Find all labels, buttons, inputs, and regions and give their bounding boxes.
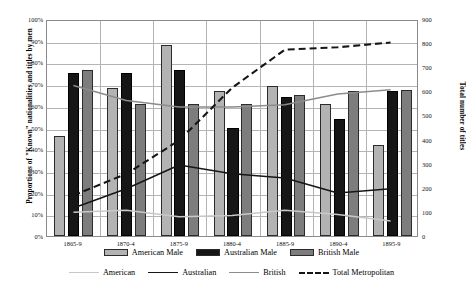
legend-item[interactable]: American Male xyxy=(104,248,183,257)
y-tick-label-right: 300 xyxy=(422,161,448,168)
legend-line-icon xyxy=(148,269,178,277)
line-australian xyxy=(73,165,390,208)
bar-legend: American MaleAustralian MaleBritish Male xyxy=(0,248,463,257)
legend-item[interactable]: Total Metropolitan xyxy=(299,268,395,277)
x-tick-label: 1885-9 xyxy=(257,240,313,247)
line-series-layer xyxy=(47,21,417,236)
y-tick-label-right: 100 xyxy=(422,209,448,216)
line-total xyxy=(73,43,390,196)
x-tick-label: 1890-4 xyxy=(310,240,366,247)
x-tick-label: 1875-9 xyxy=(151,240,207,247)
legend-label: Australian Male xyxy=(224,248,277,257)
x-tick-label: 1880-4 xyxy=(204,240,260,247)
y-axis-right-title: Total number of titles xyxy=(458,26,466,206)
legend-label: Australian xyxy=(182,268,216,277)
line-british xyxy=(73,86,390,108)
y-tick-label-left: 10% xyxy=(17,211,43,218)
line-american xyxy=(73,210,390,221)
line-legend: AmericanAustralianBritishTotal Metropoli… xyxy=(0,268,463,277)
y-tick-label-right: 200 xyxy=(422,185,448,192)
y-tick-label-left: 20% xyxy=(17,190,43,197)
y-tick-label-left: 60% xyxy=(17,103,43,110)
legend-item[interactable]: Australian Male xyxy=(196,248,277,257)
y-tick-label-left: 50% xyxy=(17,125,43,132)
y-tick-label-left: 80% xyxy=(17,59,43,66)
y-tick-label-left: 40% xyxy=(17,146,43,153)
y-tick-label-left: 30% xyxy=(17,168,43,175)
legend-swatch-icon xyxy=(196,249,220,256)
legend-swatch-icon xyxy=(290,249,314,256)
legend-line-icon xyxy=(299,269,329,277)
legend-label: American Male xyxy=(132,248,183,257)
y-tick-label-left: 70% xyxy=(17,81,43,88)
y-tick-label-right: 700 xyxy=(422,64,448,71)
y-tick-label-right: 800 xyxy=(422,40,448,47)
y-tick-label-left: 100% xyxy=(17,16,43,23)
legend-label: American xyxy=(103,268,135,277)
x-tick-label: 1895-9 xyxy=(363,240,419,247)
legend-item[interactable]: American xyxy=(69,268,135,277)
legend-item[interactable]: British xyxy=(229,268,285,277)
legend-item[interactable]: British Male xyxy=(290,248,359,257)
legend-label: British Male xyxy=(318,248,359,257)
y-tick-label-right: 900 xyxy=(422,16,448,23)
legend-line-icon xyxy=(69,269,99,277)
x-tick-label: 1865-9 xyxy=(45,240,101,247)
y-axis-left-title: Proportions of "Known" nationalities and… xyxy=(26,26,34,206)
legend-line-icon xyxy=(229,269,259,277)
y-tick-label-right: 500 xyxy=(422,112,448,119)
x-tick-label: 1870-4 xyxy=(98,240,154,247)
y-tick-label-left: 0% xyxy=(17,233,43,240)
legend-label: British xyxy=(263,268,285,277)
y-tick-label-right: 600 xyxy=(422,88,448,95)
plot-area xyxy=(46,20,418,237)
legend-item[interactable]: Australian xyxy=(148,268,216,277)
legend-swatch-icon xyxy=(104,249,128,256)
legend-label: Total Metropolitan xyxy=(333,268,395,277)
y-tick-label-left: 90% xyxy=(17,38,43,45)
y-tick-label-right: 400 xyxy=(422,137,448,144)
y-tick-label-right: 0 xyxy=(422,233,448,240)
